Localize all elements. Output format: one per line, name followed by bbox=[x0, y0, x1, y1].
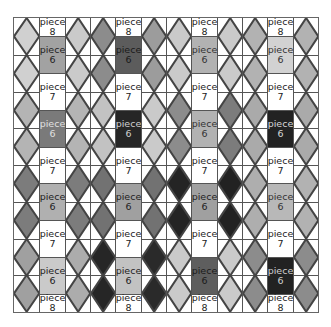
piece-number: 8 bbox=[49, 303, 55, 313]
diamond-shape bbox=[66, 165, 90, 202]
diamond-shape bbox=[218, 202, 242, 239]
piece-number: 7 bbox=[201, 239, 207, 249]
diamond-shape bbox=[243, 239, 267, 276]
diamond-shape bbox=[14, 165, 39, 202]
piece-number: 6 bbox=[277, 129, 283, 139]
piece-label-cell: piece7 bbox=[192, 73, 216, 110]
diamond-shape bbox=[66, 202, 90, 239]
piece-number: 7 bbox=[125, 92, 131, 102]
diamond-shape bbox=[218, 128, 242, 165]
piece-number: 6 bbox=[277, 276, 283, 286]
diamond-shape bbox=[294, 202, 318, 239]
diamond-shape bbox=[14, 239, 39, 276]
diamond-shape bbox=[243, 18, 267, 55]
piece-label-cell: piece8 bbox=[40, 18, 64, 36]
diamond-shape bbox=[91, 55, 115, 92]
diamond-shape bbox=[91, 275, 115, 312]
diamond-shape bbox=[14, 275, 39, 312]
diamond-shape bbox=[167, 275, 191, 312]
label-column: piece8piece6piece7piece6piece7piece6piec… bbox=[267, 18, 292, 312]
diamond-shape bbox=[66, 92, 90, 129]
piece-label-cell: piece6 bbox=[192, 110, 216, 147]
piece-label-cell: piece7 bbox=[268, 220, 292, 257]
diamond-shape bbox=[91, 128, 115, 165]
diamond-shape bbox=[167, 55, 191, 92]
diamond-shape bbox=[66, 128, 90, 165]
piece-number: 6 bbox=[49, 55, 55, 65]
diamond-shape bbox=[243, 55, 267, 92]
diamond-shape bbox=[91, 165, 115, 202]
diamond-shape bbox=[218, 55, 242, 92]
piece-number: 6 bbox=[201, 276, 207, 286]
piece-label-cell: piece6 bbox=[268, 36, 292, 73]
diamond-shape bbox=[294, 92, 318, 129]
diamond-shape bbox=[142, 275, 166, 312]
piece-number: 6 bbox=[49, 202, 55, 212]
diamond-shape bbox=[243, 202, 267, 239]
diamond-shape bbox=[167, 165, 191, 202]
piece-number: 7 bbox=[125, 166, 131, 176]
diamond-column bbox=[90, 18, 115, 312]
diamond-shape bbox=[243, 128, 267, 165]
diamond-shape bbox=[218, 165, 242, 202]
piece-label-cell: piece8 bbox=[116, 294, 140, 312]
diamond-shape bbox=[91, 239, 115, 276]
piece-label-cell: piece6 bbox=[116, 257, 140, 294]
piece-label-cell: piece7 bbox=[192, 147, 216, 184]
diamond-column bbox=[217, 18, 242, 312]
label-column: piece8piece6piece7piece6piece7piece6piec… bbox=[115, 18, 140, 312]
diamond-shape bbox=[66, 275, 90, 312]
diamond-shape bbox=[294, 55, 318, 92]
diamond-column bbox=[242, 18, 267, 312]
piece-number: 7 bbox=[201, 166, 207, 176]
piece-label-cell: piece6 bbox=[116, 36, 140, 73]
diamond-shape bbox=[294, 18, 318, 55]
piece-label-cell: piece8 bbox=[116, 18, 140, 36]
diamond-shape bbox=[218, 239, 242, 276]
piece-number: 6 bbox=[125, 202, 131, 212]
diamond-shape bbox=[14, 202, 39, 239]
diamond-shape bbox=[243, 92, 267, 129]
diamond-shape bbox=[14, 18, 39, 55]
piece-number: 6 bbox=[201, 202, 207, 212]
diamond-shape bbox=[142, 92, 166, 129]
diamond-column bbox=[166, 18, 191, 312]
diamond-shape bbox=[167, 239, 191, 276]
diamond-shape bbox=[294, 128, 318, 165]
diamond-shape bbox=[142, 239, 166, 276]
diamond-shape bbox=[294, 165, 318, 202]
piece-label-cell: piece6 bbox=[268, 183, 292, 220]
piece-label-cell: piece7 bbox=[40, 73, 64, 110]
diamond-shape bbox=[14, 92, 39, 129]
diamond-column bbox=[14, 18, 39, 312]
piece-label-cell: piece8 bbox=[268, 18, 292, 36]
piece-number: 7 bbox=[277, 239, 283, 249]
piece-label-cell: piece6 bbox=[40, 257, 64, 294]
diamond-shape bbox=[66, 55, 90, 92]
diamond-shape bbox=[142, 128, 166, 165]
piece-label-cell: piece8 bbox=[268, 294, 292, 312]
figure-caption bbox=[0, 0, 331, 5]
piece-label-cell: piece6 bbox=[268, 110, 292, 147]
diamond-shape bbox=[243, 165, 267, 202]
piece-number: 7 bbox=[49, 166, 55, 176]
piece-number: 6 bbox=[201, 129, 207, 139]
diamond-shape bbox=[218, 92, 242, 129]
diamond-shape bbox=[91, 202, 115, 239]
piece-label-cell: piece6 bbox=[40, 183, 64, 220]
piece-word: piece bbox=[116, 156, 142, 166]
piece-label-cell: piece6 bbox=[40, 36, 64, 73]
piece-label-cell: piece7 bbox=[268, 73, 292, 110]
piece-label-cell: piece7 bbox=[268, 147, 292, 184]
diamond-shape bbox=[167, 18, 191, 55]
piece-label-cell: piece7 bbox=[116, 220, 140, 257]
diamond-shape bbox=[167, 202, 191, 239]
piece-number: 8 bbox=[277, 303, 283, 313]
piece-label-cell: piece8 bbox=[192, 294, 216, 312]
diamond-shape bbox=[218, 275, 242, 312]
piece-number: 7 bbox=[201, 92, 207, 102]
diamond-shape bbox=[142, 18, 166, 55]
diamond-shape bbox=[91, 92, 115, 129]
piece-word: piece bbox=[40, 156, 66, 166]
piece-label-cell: piece6 bbox=[116, 110, 140, 147]
